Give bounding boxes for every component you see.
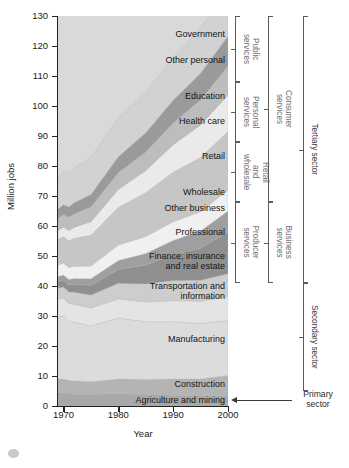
y-axis-tick-label: 60 (37, 221, 52, 231)
bracket-m (299, 150, 303, 151)
bracket-t (303, 16, 308, 17)
series-label: Agriculture and mining (135, 395, 225, 406)
bracket-v (235, 142, 236, 202)
y-axis-tick (52, 256, 58, 257)
sector-bracket (268, 202, 273, 283)
series-label: Education (185, 90, 225, 101)
bracket-t (268, 16, 273, 17)
y-axis-tick (52, 166, 58, 167)
bracket-v (303, 283, 304, 391)
primary-sector-arrow-head (231, 397, 237, 403)
series-label: Construction (174, 378, 225, 389)
bracket-t (235, 202, 240, 203)
sector-bracket (268, 16, 273, 202)
x-axis-tick-label: 1970 (53, 409, 74, 420)
y-axis-tick-label: 70 (37, 191, 52, 201)
sector-bracket (235, 16, 240, 82)
bracket-m (231, 243, 235, 244)
bracket-v (268, 202, 269, 283)
series-label: Government (175, 29, 225, 40)
y-axis-tick (52, 406, 58, 407)
bracket-v (235, 202, 236, 283)
series-label: Finance, insurance and real estate (149, 250, 225, 271)
y-axis-tick-label: 120 (32, 41, 52, 51)
sector-bracket (235, 202, 240, 283)
series-label: Other business (164, 203, 225, 214)
x-axis-title: Year (133, 428, 152, 439)
y-axis-tick (52, 346, 58, 347)
y-axis-tick-label: 80 (37, 161, 52, 171)
y-axis-tick (52, 76, 58, 77)
y-axis-tick (52, 376, 58, 377)
bracket-m (299, 337, 303, 338)
bracket-v (268, 16, 269, 202)
sector-bracket-label: Producer services (242, 202, 260, 283)
y-axis-tick-label: 20 (37, 341, 52, 351)
y-axis-tick-label: 30 (37, 311, 52, 321)
x-axis-line (57, 406, 229, 407)
y-axis-tick (52, 46, 58, 47)
series-label: Health care (179, 116, 225, 127)
series-label: Transportation and information (150, 280, 225, 301)
y-axis-tick (52, 136, 58, 137)
sector-bracket-label: Business services (275, 202, 293, 283)
y-axis-tick (52, 16, 58, 17)
x-axis-tick-label: 2000 (217, 409, 238, 420)
sector-bracket-label: Personal services (242, 82, 260, 142)
bracket-m (231, 49, 235, 50)
series-label: Retail (202, 150, 225, 161)
sector-bracket (303, 283, 308, 391)
sector-bracket-label: Secondary sector (310, 283, 319, 391)
bracket-t (235, 142, 240, 143)
series-label: Other personal (165, 54, 225, 65)
x-axis-tick-label: 1980 (108, 409, 129, 420)
y-axis-tick (52, 316, 58, 317)
primary-sector-label: Primary sector (293, 390, 343, 409)
bracket-b (235, 282, 240, 283)
bracket-t (268, 202, 273, 203)
bracket-t (235, 16, 240, 17)
y-axis-tick-label: 10 (37, 371, 52, 381)
y-axis-tick-label: 130 (32, 11, 52, 21)
y-axis-tick-label: 50 (37, 251, 52, 261)
bracket-m (231, 112, 235, 113)
stacked-area-chart: 0102030405060708090100110120130 19701980… (0, 0, 349, 468)
series-label: Professional (175, 227, 225, 238)
y-axis-tick-label: 110 (33, 71, 52, 81)
bracket-v (235, 82, 236, 142)
series-label: Wholesale (183, 186, 225, 197)
y-axis-tick (52, 286, 58, 287)
series-label: Manufacturing (168, 333, 225, 344)
bracket-m (264, 243, 268, 244)
bracket-m (264, 109, 268, 110)
y-axis-tick-label: 0 (43, 401, 52, 411)
primary-sector-arrow-line (236, 400, 292, 401)
sector-bracket-label: Consumer services (275, 16, 293, 202)
page-corner-mark (8, 449, 19, 458)
sector-bracket-label: Tertiary sector (310, 16, 319, 283)
sector-bracket (235, 82, 240, 142)
bracket-t (303, 283, 308, 284)
y-axis-tick (52, 106, 58, 107)
y-axis-line (57, 16, 58, 407)
y-axis-tick (52, 226, 58, 227)
bracket-b (268, 282, 273, 283)
bracket-v (235, 16, 236, 82)
sector-bracket-label: Retail and wholesale (242, 142, 270, 202)
x-axis-tick-label: 1990 (163, 409, 184, 420)
bracket-v (303, 16, 304, 283)
bracket-m (231, 172, 235, 173)
y-axis-tick-label: 90 (37, 131, 52, 141)
sector-bracket-label: Public services (242, 16, 260, 82)
y-axis-tick-label: 40 (37, 281, 52, 291)
y-axis-tick (52, 196, 58, 197)
y-axis-title: Million jobs (5, 163, 16, 210)
bracket-t (235, 82, 240, 83)
y-axis-tick-label: 100 (32, 101, 52, 111)
sector-bracket (303, 16, 308, 283)
sector-bracket (235, 142, 240, 202)
area-band (58, 316, 228, 382)
